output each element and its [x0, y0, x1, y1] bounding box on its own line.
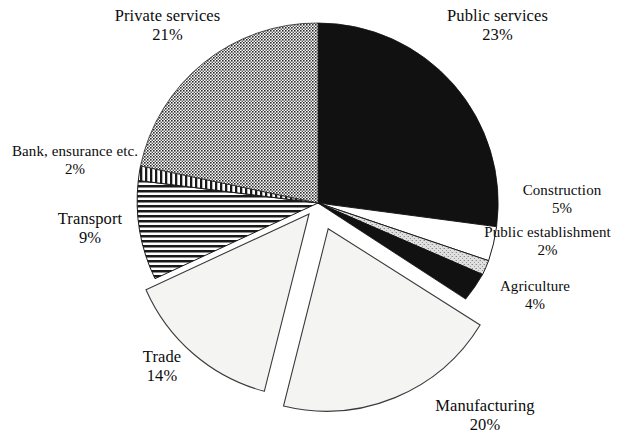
slice-label-agriculture-name: Agriculture [470, 278, 600, 296]
slice-label-transport-name: Transport [30, 209, 150, 228]
slice-public-services [318, 23, 498, 227]
slice-label-trade-name: Trade [112, 347, 212, 366]
slice-label-manufacturing-name: Manufacturing [395, 396, 575, 415]
slice-label-construction-name: Construction [498, 182, 626, 200]
slice-label-public-establishment-percent: 2% [466, 242, 629, 260]
slice-label-public-services: Public services 23% [395, 6, 600, 45]
slice-label-trade-percent: 14% [112, 366, 212, 385]
pie-chart: Private services 21% Public services 23%… [0, 0, 629, 446]
slice-label-construction: Construction 5% [498, 182, 626, 217]
slice-label-private-services-percent: 21% [60, 25, 275, 44]
slice-label-agriculture: Agriculture 4% [470, 278, 600, 313]
slice-label-manufacturing: Manufacturing 20% [395, 396, 575, 435]
slice-label-public-establishment: Public establishment 2% [466, 224, 629, 259]
slice-label-public-establishment-name: Public establishment [466, 224, 629, 242]
slice-label-manufacturing-percent: 20% [395, 415, 575, 434]
slice-label-private-services: Private services 21% [60, 6, 275, 45]
slice-label-bank-ensurance: Bank, ensurance etc. 2% [0, 143, 150, 178]
slice-label-private-services-name: Private services [60, 6, 275, 25]
slice-label-bank-ensurance-percent: 2% [0, 161, 150, 179]
slice-label-construction-percent: 5% [498, 200, 626, 218]
slice-label-transport-percent: 9% [30, 228, 150, 247]
slice-label-transport: Transport 9% [30, 209, 150, 248]
slice-label-public-services-percent: 23% [395, 25, 600, 44]
slice-label-bank-ensurance-name: Bank, ensurance etc. [0, 143, 150, 161]
slice-label-trade: Trade 14% [112, 347, 212, 386]
slice-label-agriculture-percent: 4% [470, 296, 600, 314]
slice-label-public-services-name: Public services [395, 6, 600, 25]
